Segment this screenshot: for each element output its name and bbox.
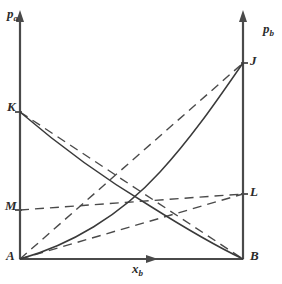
raoult-ideal-a-line (20, 112, 243, 259)
raoult-ideal-b-line (20, 63, 243, 259)
axis-label-xb: xb (132, 262, 143, 275)
partial-pressure-diagram: pa pb xb K M A J L B (0, 0, 282, 284)
henry-tangent-a-l-line (20, 194, 243, 259)
point-label-b: B (250, 249, 259, 262)
partial-pressure-b-curve (20, 63, 243, 259)
point-label-j: J (250, 54, 257, 67)
dashed-lines-group (20, 63, 243, 259)
henry-tangent-m-l-line (20, 194, 243, 210)
axis-label-pb: pb (263, 22, 274, 35)
bottom-axis-arrow-icon (146, 255, 158, 263)
point-label-k: K (7, 100, 16, 113)
point-label-l: L (250, 185, 258, 198)
axis-label-pa: pa (7, 7, 18, 20)
plot-canvas (0, 0, 282, 284)
point-label-m: M (5, 199, 17, 212)
solid-curves-group (20, 63, 243, 259)
point-label-a: A (6, 249, 15, 262)
right-axis-arrow-icon (239, 10, 247, 22)
